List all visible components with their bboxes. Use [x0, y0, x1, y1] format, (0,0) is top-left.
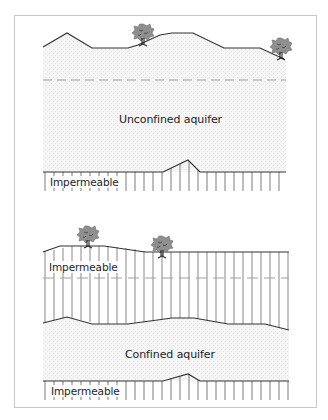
- unconfined-aquifer-label: Unconfined aquifer: [119, 113, 222, 126]
- upper-impermeable-base-label: Impermeable: [49, 176, 120, 188]
- upper-panel: [43, 24, 292, 191]
- cap-impermeable-stripes: [45, 246, 288, 330]
- aquifer-diagram: Unconfined aquifer Impermeable Impermeab…: [0, 0, 328, 420]
- confined-aquifer-label: Confined aquifer: [125, 348, 215, 361]
- cap-impermeable-label: Impermeable: [48, 261, 119, 273]
- lower-impermeable-base-label: Impermeable: [50, 385, 121, 397]
- tree-icon: [77, 226, 99, 248]
- lower-panel: [43, 226, 289, 400]
- unconfined-aquifer-fill: [43, 33, 286, 172]
